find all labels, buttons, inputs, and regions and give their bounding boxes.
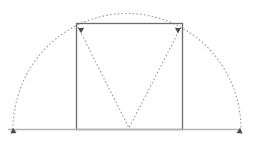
inscribed-rectangle: [77, 24, 183, 130]
geometry-diagram: [0, 0, 256, 146]
arrowhead-layer: [10, 25, 243, 133]
semicircular-arc: [13, 13, 241, 129]
arrowhead-arc-left-end: [10, 128, 17, 134]
v-chevron: [78, 27, 181, 128]
arrowhead-top-left: [77, 25, 85, 33]
arrowhead-arc-right-end: [236, 128, 243, 134]
diagram-canvas: [0, 0, 256, 146]
